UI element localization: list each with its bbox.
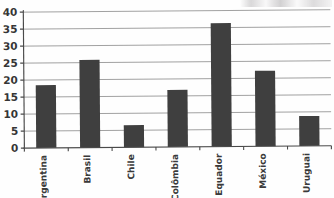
gridline — [23, 10, 330, 12]
gridline — [24, 44, 331, 46]
y-tick-label-40: 40 — [3, 6, 18, 18]
bar-brasil — [79, 60, 100, 148]
bar-uruguai — [299, 116, 319, 146]
gridline — [24, 78, 331, 80]
y-axis-tick-labels: 0510152025303540 — [3, 6, 19, 154]
x-axis-tick-labels: ArgentinaBrasilChileColômbiaEquadorMéxic… — [38, 152, 312, 198]
y-tick-label-0: 0 — [11, 142, 18, 154]
x-tick-label-equador: Equador — [214, 153, 224, 196]
x-tick-label-chile: Chile — [126, 154, 136, 179]
y-axis-line — [23, 10, 24, 148]
x-tick-label-uruguai: Uruguai — [301, 153, 311, 193]
gridline — [23, 27, 330, 29]
x-tick-label-argentina: Argentina — [38, 155, 48, 198]
y-tick-label-30: 30 — [3, 40, 18, 52]
y-tick-label-20: 20 — [3, 74, 18, 86]
y-tick-label-10: 10 — [3, 108, 18, 120]
bar-chile — [124, 125, 144, 147]
bar-argentina — [36, 85, 57, 148]
bar-col-mbia — [167, 90, 188, 147]
y-tick-label-25: 25 — [3, 57, 18, 69]
chart-canvas: 0510152025303540 ArgentinaBrasilChileCol… — [0, 0, 334, 198]
y-tick-label-15: 15 — [3, 91, 18, 103]
x-tick-label-m-xico: México — [258, 153, 268, 189]
bar-chart-figure: 0510152025303540 ArgentinaBrasilChileCol… — [0, 0, 334, 198]
y-tick-label-35: 35 — [3, 23, 18, 35]
bar-m-xico — [255, 71, 276, 147]
bar-equador — [211, 23, 232, 147]
gridline — [24, 61, 331, 63]
y-tick-label-5: 5 — [11, 125, 18, 137]
plot-area-wrapper: 0510152025303540 ArgentinaBrasilChileCol… — [0, 0, 334, 198]
x-tick-label-brasil: Brasil — [82, 155, 92, 184]
x-tick-label-col-mbia: Colômbia — [170, 154, 180, 198]
